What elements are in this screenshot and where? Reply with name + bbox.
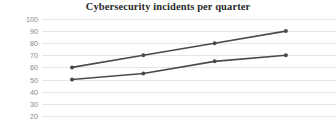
series-line-2 [72, 55, 286, 79]
plot-area: 1009080706050403020 [0, 14, 336, 124]
data-point [70, 78, 74, 82]
data-point [284, 29, 288, 33]
data-point [213, 41, 217, 45]
data-point [213, 59, 217, 63]
series-line-1 [72, 31, 286, 67]
chart-title: Cybersecurity incidents per quarter [0, 1, 336, 12]
series-group [0, 14, 336, 124]
data-point [284, 53, 288, 57]
data-point [141, 53, 145, 57]
data-point [70, 65, 74, 69]
data-point [141, 71, 145, 75]
chart-container: Cybersecurity incidents per quarter 1009… [0, 0, 336, 124]
